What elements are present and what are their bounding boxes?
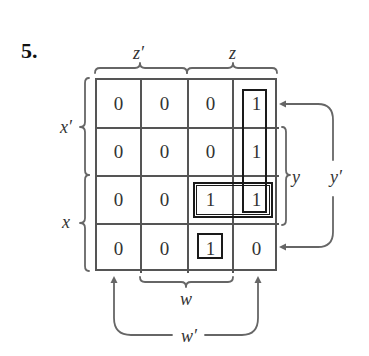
label-w: w <box>180 290 192 308</box>
cell-r3-c3: 0 <box>234 225 279 273</box>
brace-x <box>80 175 89 271</box>
brace-y <box>282 127 290 225</box>
label-x-prime: x′ <box>60 118 72 136</box>
cell-r2-c1: 0 <box>142 177 189 225</box>
brace-z <box>187 63 277 73</box>
cell-r1-c0: 0 <box>97 129 142 177</box>
loop-horizontal-pair-inner <box>196 185 270 215</box>
cell-r1-c1: 0 <box>142 129 189 177</box>
label-z-prime: z′ <box>133 44 144 62</box>
label-w-prime: w′ <box>178 327 200 345</box>
arrow-w-right <box>255 276 262 283</box>
cell-r1-c2: 0 <box>189 129 234 177</box>
cell-r3-c1: 0 <box>142 225 189 273</box>
brace-z-prime <box>95 63 187 73</box>
cell-r2-c0: 0 <box>97 177 142 225</box>
cell-r0-c0: 0 <box>97 80 142 129</box>
arc-w-prime <box>114 281 172 335</box>
arrow-w-left <box>111 276 118 283</box>
arrow-y-bottom <box>279 244 286 251</box>
cell-r0-c1: 0 <box>142 80 189 129</box>
cell-r0-c2: 0 <box>189 80 234 129</box>
cell-r3-c0: 0 <box>97 225 142 273</box>
brace-x-prime <box>80 78 89 175</box>
brace-w <box>140 277 233 287</box>
label-z: z <box>229 44 236 62</box>
label-y: y <box>292 168 300 186</box>
label-x: x <box>62 213 70 231</box>
problem-number: 5. <box>21 38 38 64</box>
arrow-y-top <box>279 101 286 108</box>
arc-y-prime <box>283 104 333 160</box>
label-y-prime: y′ <box>330 168 342 186</box>
loop-single-cell <box>197 233 223 259</box>
